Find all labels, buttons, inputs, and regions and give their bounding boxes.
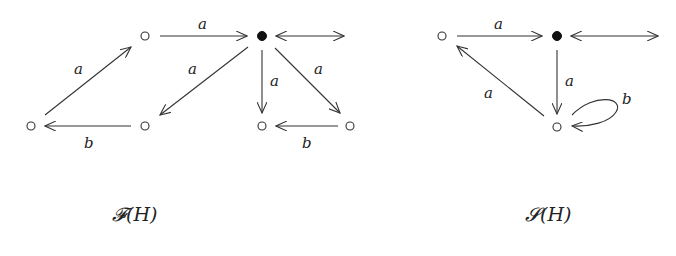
edge-f-center-bottomright bbox=[275, 48, 340, 113]
node-f-top-left bbox=[141, 32, 149, 40]
edge-label: a bbox=[314, 60, 323, 78]
edge-f-bottomfarleft-topleft bbox=[45, 47, 131, 115]
edge-label: a bbox=[74, 60, 83, 78]
edge-label: a bbox=[270, 72, 279, 90]
node-f-bottom-mid bbox=[258, 122, 266, 130]
edge-label: b bbox=[302, 134, 312, 152]
caption-s: 𝓢(H) bbox=[525, 203, 571, 225]
edge-label: a bbox=[494, 15, 503, 33]
node-f-center bbox=[258, 32, 267, 41]
edge-label: b bbox=[622, 90, 632, 108]
node-s-center bbox=[553, 32, 562, 41]
edge-label: a bbox=[484, 84, 493, 102]
edge-label: a bbox=[198, 15, 207, 33]
node-f-bottom-right bbox=[346, 122, 354, 130]
diagram-s: a a a b 𝓢(H) bbox=[438, 15, 658, 225]
node-f-bottom-left bbox=[141, 122, 149, 130]
edge-label: b bbox=[84, 134, 94, 152]
edge-f-center-bottomleft bbox=[160, 47, 248, 115]
caption-f: 𝓕(H) bbox=[112, 203, 157, 225]
node-s-left bbox=[438, 32, 446, 40]
automaton-diagrams: a a b a a a b 𝓕(H) a a a b bbox=[0, 0, 676, 256]
edge-s-bottom-loop bbox=[572, 100, 618, 127]
edge-s-bottom-left bbox=[457, 46, 544, 116]
diagram-f: a a b a a a b 𝓕(H) bbox=[27, 15, 354, 225]
node-s-bottom bbox=[553, 123, 561, 131]
node-f-bottom-far-left bbox=[27, 122, 35, 130]
edge-label: a bbox=[565, 72, 574, 90]
edge-label: a bbox=[188, 60, 197, 78]
